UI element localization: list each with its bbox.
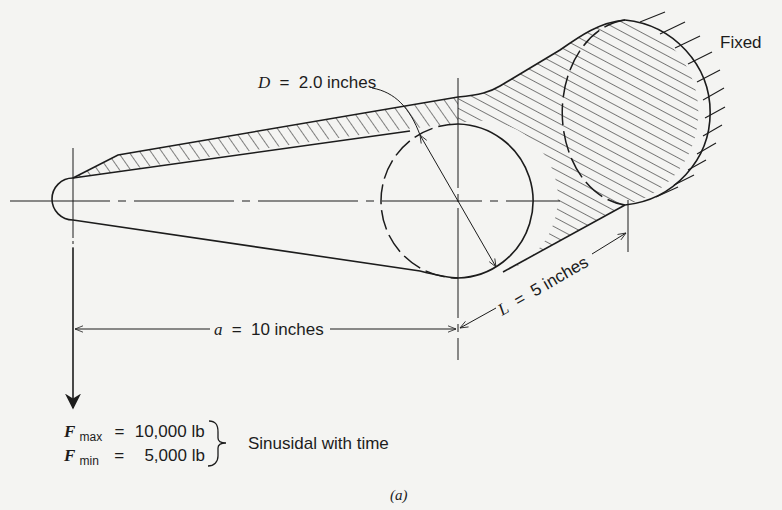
load-note: Sinusidal with time: [248, 434, 389, 453]
load-labels: F max = 10,000 lb F min = 5,000 lb Sinus…: [63, 421, 389, 469]
f-min-label: F min = 5,000 lb: [63, 446, 205, 469]
f-max-label: F max = 10,000 lb: [63, 422, 205, 445]
moment-arm-dimension: a = 10 inches: [75, 320, 456, 339]
crank-diagram: D = 2.0 inches Fixed a = 10 inches L = 5…: [0, 0, 782, 510]
crank-tip: [52, 178, 73, 220]
shaft: [458, 12, 725, 272]
moment-arm-label: a = 10 inches: [214, 320, 324, 339]
figure-caption: (a): [390, 487, 408, 504]
crank-arm: [52, 97, 458, 278]
diameter-label: D = 2.0 inches: [257, 73, 376, 92]
length-label: L = 5 inches: [494, 252, 592, 320]
brace-icon: [208, 421, 226, 466]
fixed-label: Fixed: [720, 33, 762, 52]
